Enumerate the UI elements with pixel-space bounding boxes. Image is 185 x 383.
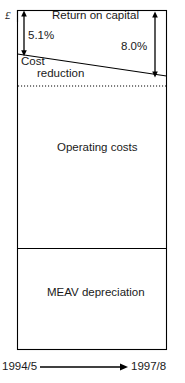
segment-label-cost-reduction-line1: Cost [21, 55, 45, 67]
annotation-start-percentage: 5.1% [28, 29, 54, 41]
y-axis-unit-label: £ [5, 10, 11, 22]
figure-canvas: £ Return on capital 5.1% 8.0% Cost reduc… [0, 0, 185, 383]
x-axis-start-label: 1994/5 [2, 360, 37, 372]
x-axis-arrow [40, 363, 128, 370]
segment-label-return-on-capital: Return on capital [52, 9, 139, 21]
x-axis-end-label: 1997/8 [131, 360, 166, 372]
segment-label-cost-reduction-line2: reduction [21, 67, 101, 79]
annotation-end-percentage: 8.0% [121, 40, 147, 52]
segment-label-operating-costs: Operating costs [57, 141, 138, 153]
segment-label-meav-depreciation: MEAV depreciation [47, 286, 145, 298]
segment-label-cost-reduction: Cost reduction [21, 55, 101, 79]
